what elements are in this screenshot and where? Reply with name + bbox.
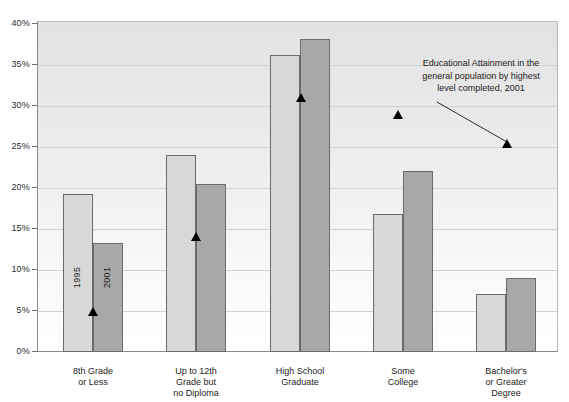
ytick-mark-0 xyxy=(32,351,37,352)
category-line: Graduate xyxy=(245,377,355,388)
ytick-label-15: 15% xyxy=(4,223,30,233)
ytick-label-25: 25% xyxy=(4,141,30,151)
marker-triangle-bachelors-or-greater-degree xyxy=(502,139,512,148)
category-line: Some xyxy=(348,366,458,377)
ytick-mark-25 xyxy=(32,146,37,147)
category-line: Degree xyxy=(451,388,561,399)
marker-triangle-some-college xyxy=(393,110,403,119)
category-label-8th-grade-or-less: 8th Grade or Less xyxy=(38,366,148,388)
category-label-some-college: Some College xyxy=(348,366,458,388)
ytick-label-30: 30% xyxy=(4,100,30,110)
category-line: 8th Grade xyxy=(38,366,148,377)
ytick-mark-20 xyxy=(32,187,37,188)
ytick-mark-30 xyxy=(32,105,37,106)
category-line: Up to 12th xyxy=(141,366,251,377)
annotation-line-3: level completed, 2001 xyxy=(401,82,561,95)
ytick-mark-10 xyxy=(32,269,37,270)
ytick-label-10: 10% xyxy=(4,264,30,274)
ytick-label-35: 35% xyxy=(4,59,30,69)
category-line: or Greater xyxy=(451,377,561,388)
bar-1995-some-college[interactable] xyxy=(373,214,403,352)
marker-triangle-8th-grade-or-less xyxy=(88,307,98,316)
bar-2001-bachelors-or-greater-degree[interactable] xyxy=(506,278,536,352)
ytick-label-20: 20% xyxy=(4,182,30,192)
ytick-label-40: 40% xyxy=(4,18,30,28)
category-line: Bachelor's xyxy=(451,366,561,377)
ytick-label-5: 5% xyxy=(4,305,30,315)
series-label-2001: 2001 xyxy=(102,267,112,288)
marker-triangle-up-to-12th-grade-no-diploma xyxy=(191,232,201,241)
bar-2001-8th-grade-or-less[interactable] xyxy=(93,243,123,352)
category-line: or Less xyxy=(38,377,148,388)
annotation-text: Educational Attainment in the general po… xyxy=(401,57,561,95)
bar-1995-bachelors-or-greater-degree[interactable] xyxy=(476,294,506,352)
marker-triangle-high-school-graduate xyxy=(296,93,306,102)
category-line: Grade but xyxy=(141,377,251,388)
series-label-1995: 1995 xyxy=(72,267,82,288)
chart-container: 40% 35% 30% 25% 20% 15% 10% 5% 0% 1995 2… xyxy=(0,0,569,402)
annotation-line-2: general population by highest xyxy=(401,70,561,83)
bar-2001-some-college[interactable] xyxy=(403,171,433,352)
ytick-mark-40 xyxy=(32,23,37,24)
category-label-high-school-graduate: High School Graduate xyxy=(245,366,355,388)
category-line: High School xyxy=(245,366,355,377)
category-line: no Diploma xyxy=(141,388,251,399)
bar-2001-up-to-12th-grade-no-diploma[interactable] xyxy=(196,184,226,352)
ytick-mark-15 xyxy=(32,228,37,229)
ytick-mark-35 xyxy=(32,64,37,65)
ytick-mark-5 xyxy=(32,310,37,311)
ytick-label-0: 0% xyxy=(4,346,30,356)
category-line: College xyxy=(348,377,458,388)
category-label-up-to-12th-grade-no-diploma: Up to 12th Grade but no Diploma xyxy=(141,366,251,399)
category-label-bachelors-or-greater-degree: Bachelor's or Greater Degree xyxy=(451,366,561,399)
bar-1995-up-to-12th-grade-no-diploma[interactable] xyxy=(166,155,196,352)
bar-2001-high-school-graduate[interactable] xyxy=(300,39,330,352)
annotation-line-1: Educational Attainment in the xyxy=(401,57,561,70)
